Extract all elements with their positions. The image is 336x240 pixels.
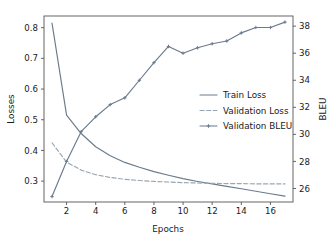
y-tick-label: 0.6 xyxy=(24,84,38,94)
x-tick-label: 16 xyxy=(265,206,276,216)
x-tick-label: 8 xyxy=(151,206,156,216)
x-tick-label: 14 xyxy=(236,206,247,216)
legend-label: Train Loss xyxy=(222,90,267,100)
legend-label: Validation Loss xyxy=(223,106,289,116)
y2-tick-label: 26 xyxy=(299,184,310,194)
y-tick-label: 0.8 xyxy=(24,23,38,33)
y2-tick-label: 32 xyxy=(299,102,310,112)
y2-tick-label: 36 xyxy=(299,48,310,58)
y2-tick-label: 28 xyxy=(299,157,310,167)
legend-label: Validation BLEU xyxy=(223,121,292,131)
y2-tick-label: 34 xyxy=(299,75,310,85)
x-tick-label: 2 xyxy=(64,206,69,216)
x-tick-label: 6 xyxy=(122,206,127,216)
y2-tick-label: 38 xyxy=(299,21,310,31)
y2-tick-label: 30 xyxy=(299,129,310,139)
x-tick-label: 10 xyxy=(178,206,189,216)
y-tick-label: 0.7 xyxy=(24,53,38,63)
y-tick-label: 0.5 xyxy=(24,115,38,125)
chart-figure: 0.30.40.50.60.70.8 26283032343638 246810… xyxy=(0,0,336,240)
y-tick-label: 0.4 xyxy=(24,146,38,156)
line-chart-canvas: 0.30.40.50.60.70.8 26283032343638 246810… xyxy=(0,0,336,240)
x-tick-label: 4 xyxy=(93,206,98,216)
y2-axis-label: BLEU xyxy=(318,98,328,121)
x-tick-label: 12 xyxy=(207,206,218,216)
x-axis-label: Epochs xyxy=(152,224,184,234)
figure-background xyxy=(0,0,336,240)
y-axis-label: Losses xyxy=(6,94,16,124)
y-tick-label: 0.3 xyxy=(24,176,38,186)
